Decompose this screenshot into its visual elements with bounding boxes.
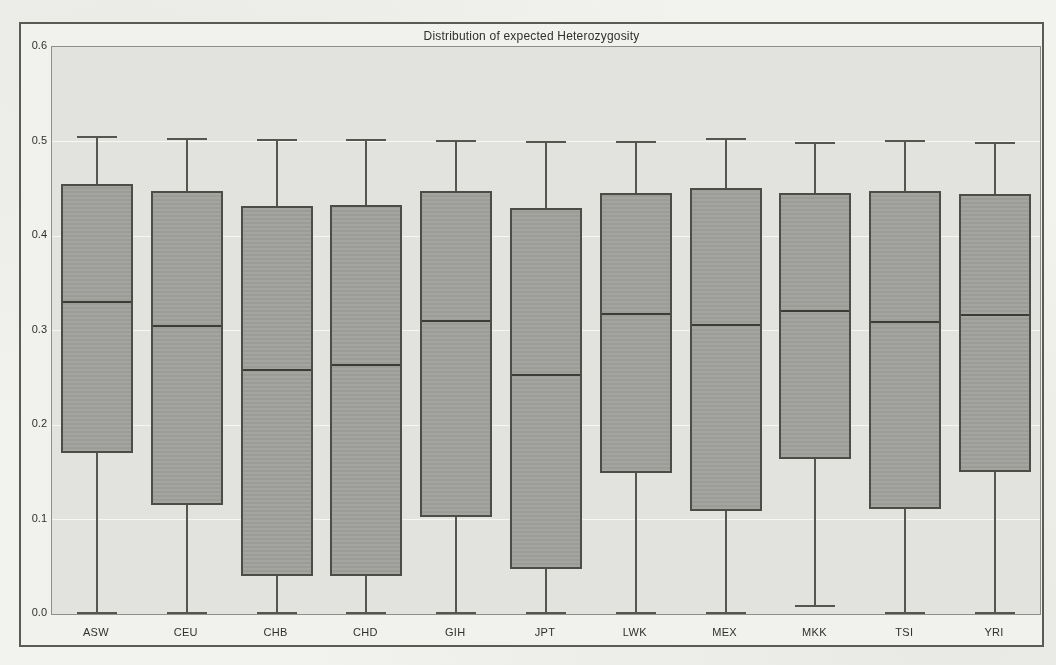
median-GIH (422, 320, 490, 322)
chart-title: Distribution of expected Heterozygosity (21, 29, 1042, 43)
median-MKK (781, 310, 849, 312)
x-category-label-MEX: MEX (695, 626, 755, 638)
box-TSI (869, 191, 941, 509)
x-category-label-CHB: CHB (246, 626, 306, 638)
whisker-cap-bottom-MEX (706, 612, 746, 614)
whisker-cap-bottom-MKK (795, 605, 835, 607)
box-YRI (959, 194, 1031, 472)
y-tick-label-0.5: 0.5 (23, 134, 47, 146)
x-category-label-YRI: YRI (964, 626, 1024, 638)
whisker-cap-bottom-CEU (167, 612, 207, 614)
x-category-label-GIH: GIH (425, 626, 485, 638)
whisker-cap-top-TSI (885, 140, 925, 142)
whisker-cap-bottom-YRI (975, 612, 1015, 614)
whisker-cap-top-MKK (795, 142, 835, 144)
y-tick-label-0.6: 0.6 (23, 39, 47, 51)
y-tick-label-0.3: 0.3 (23, 323, 47, 335)
whisker-cap-top-MEX (706, 138, 746, 140)
whisker-cap-bottom-JPT (526, 612, 566, 614)
y-tick-label-0.0: 0.0 (23, 606, 47, 618)
whisker-cap-top-CHD (346, 139, 386, 141)
median-MEX (692, 324, 760, 326)
x-category-label-TSI: TSI (874, 626, 934, 638)
median-TSI (871, 321, 939, 323)
box-CHD (330, 205, 402, 576)
whisker-cap-top-YRI (975, 142, 1015, 144)
box-JPT (510, 208, 582, 569)
whisker-cap-top-JPT (526, 141, 566, 143)
whisker-cap-top-CEU (167, 138, 207, 140)
median-CHB (243, 369, 311, 371)
scanned-page: Distribution of expected Heterozygosity … (0, 0, 1056, 665)
whisker-cap-top-ASW (77, 136, 117, 138)
box-MEX (690, 188, 762, 511)
x-category-label-CHD: CHD (335, 626, 395, 638)
median-LWK (602, 313, 670, 315)
whisker-cap-bottom-CHB (257, 612, 297, 614)
y-tick-label-0.1: 0.1 (23, 512, 47, 524)
y-tick-label-0.2: 0.2 (23, 417, 47, 429)
whisker-cap-top-CHB (257, 139, 297, 141)
median-YRI (961, 314, 1029, 316)
x-category-label-ASW: ASW (66, 626, 126, 638)
x-category-label-MKK: MKK (784, 626, 844, 638)
x-category-label-JPT: JPT (515, 626, 575, 638)
box-LWK (600, 193, 672, 473)
whisker-cap-top-GIH (436, 140, 476, 142)
x-category-label-CEU: CEU (156, 626, 216, 638)
box-MKK (779, 193, 851, 459)
whisker-cap-bottom-ASW (77, 612, 117, 614)
whisker-cap-bottom-GIH (436, 612, 476, 614)
median-JPT (512, 374, 580, 376)
box-ASW (61, 184, 133, 453)
whisker-cap-bottom-TSI (885, 612, 925, 614)
median-ASW (63, 301, 131, 303)
whisker-cap-top-LWK (616, 141, 656, 143)
box-CHB (241, 206, 313, 576)
whisker-cap-bottom-CHD (346, 612, 386, 614)
box-CEU (151, 191, 223, 506)
plot-area (51, 46, 1041, 615)
y-tick-label-0.4: 0.4 (23, 228, 47, 240)
x-category-label-LWK: LWK (605, 626, 665, 638)
boxplot-figure: Distribution of expected Heterozygosity … (19, 22, 1044, 647)
median-CHD (332, 364, 400, 366)
whisker-cap-bottom-LWK (616, 612, 656, 614)
box-GIH (420, 191, 492, 517)
median-CEU (153, 325, 221, 327)
